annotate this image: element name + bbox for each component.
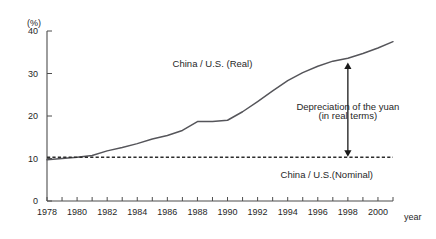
y-axis-ticks — [47, 31, 52, 201]
x-tick-label: 1980 — [67, 207, 87, 217]
x-tick-label: 1978 — [37, 207, 57, 217]
line-chart: (%) 010203040 19781980198219841986198819… — [0, 0, 436, 239]
x-tick-label: 1988 — [187, 207, 207, 217]
x-axis-name-label: year — [404, 212, 422, 222]
y-tick-label: 30 — [28, 69, 38, 79]
x-tick-label: 1996 — [308, 207, 328, 217]
y-axis-tick-labels: 010203040 — [28, 26, 38, 206]
x-tick-label: 1986 — [157, 207, 177, 217]
y-tick-label: 0 — [33, 196, 38, 206]
x-tick-label: 1994 — [278, 207, 298, 217]
x-tick-label: 1982 — [97, 207, 117, 217]
x-tick-label: 1992 — [248, 207, 268, 217]
arrow-head-down — [344, 150, 351, 157]
chart-container: (%) 010203040 19781980198219841986198819… — [0, 0, 436, 239]
y-tick-label: 20 — [28, 111, 38, 121]
x-tick-label: 2000 — [368, 207, 388, 217]
y-tick-label: 40 — [28, 26, 38, 36]
real-series-label: China / U.S. (Real) — [173, 58, 253, 69]
arrow-head-up — [344, 62, 351, 68]
x-tick-label: 1998 — [338, 207, 358, 217]
chart-annotations: China / U.S. (Real)China / U.S.(Nominal)… — [173, 58, 400, 180]
x-axis-ticks — [47, 197, 393, 201]
x-tick-label: 1984 — [127, 207, 147, 217]
x-axis-tick-labels: 1978198019821984198619881990199219941996… — [37, 207, 388, 217]
y-tick-label: 10 — [28, 154, 38, 164]
x-tick-label: 1990 — [218, 207, 238, 217]
nominal-series-label: China / U.S.(Nominal) — [281, 169, 373, 180]
